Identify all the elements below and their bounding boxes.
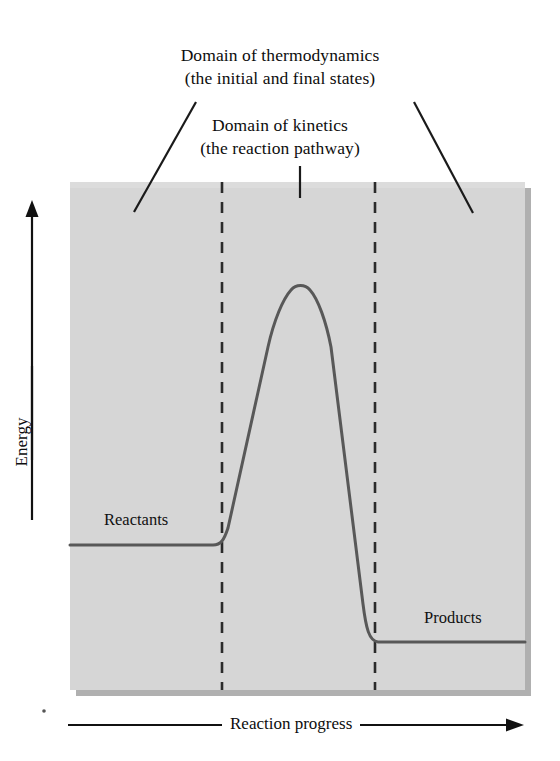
annotation-thermodynamics-line2: (the initial and final states): [0, 67, 560, 90]
annotation-kinetics: Domain of kinetics (the reaction pathway…: [0, 114, 560, 160]
reaction-energy-profile-figure: Domain of thermodynamics (the initial an…: [0, 0, 560, 761]
x-axis-arrowhead: [506, 719, 524, 732]
annotation-thermodynamics-line1: Domain of thermodynamics: [181, 45, 380, 65]
x-axis-label: Reaction progress: [230, 714, 352, 734]
curve-label-reactants: Reactants: [104, 510, 168, 530]
stray-mark: [42, 709, 46, 713]
y-axis-label: Energy: [12, 382, 32, 502]
y-axis-arrowhead: [26, 200, 39, 217]
annotation-thermodynamics: Domain of thermodynamics (the initial an…: [0, 44, 560, 90]
annotation-kinetics-line2: (the reaction pathway): [0, 137, 560, 160]
curve-label-products: Products: [424, 608, 482, 628]
annotation-kinetics-line1: Domain of kinetics: [212, 115, 348, 135]
